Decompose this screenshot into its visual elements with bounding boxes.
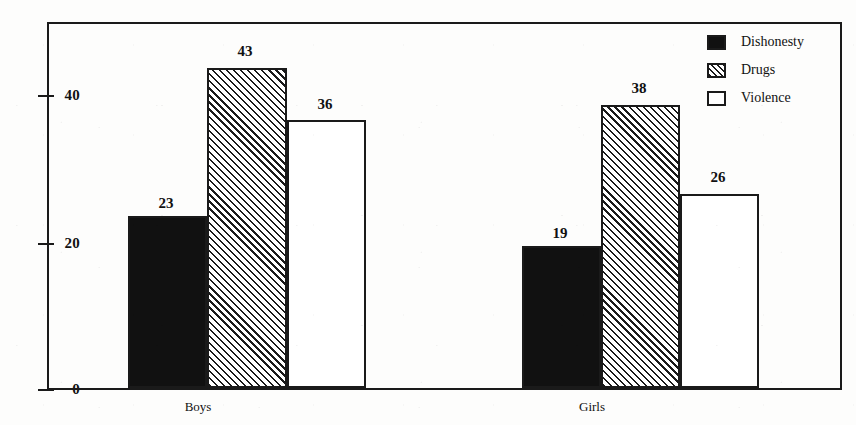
bar-value-boys-drugs: 43 [205, 44, 285, 59]
legend: Dishonesty Drugs Violence [707, 28, 847, 112]
bar-value-girls-drugs: 38 [599, 81, 679, 96]
bar-value-girls-violence: 26 [678, 170, 758, 185]
legend-label-violence: Violence [741, 91, 791, 105]
legend-swatch-dishonesty [707, 35, 726, 50]
legend-item-dishonesty: Dishonesty [707, 28, 847, 56]
bar-boys-violence [287, 120, 366, 388]
bar-value-boys-dishonesty: 23 [126, 196, 206, 211]
legend-swatch-drugs [707, 63, 726, 78]
x-tick-label-boys: Boys [158, 400, 238, 413]
legend-label-drugs: Drugs [741, 63, 775, 77]
bar-boys-drugs [207, 68, 287, 388]
bar-girls-dishonesty [522, 246, 601, 388]
legend-item-violence: Violence [707, 84, 847, 112]
bar-girls-violence [680, 194, 759, 388]
x-tick-label-girls: Girls [552, 400, 632, 413]
bar-value-girls-dishonesty: 19 [520, 226, 600, 241]
bar-value-boys-violence: 36 [285, 97, 365, 112]
legend-label-dishonesty: Dishonesty [741, 35, 804, 49]
legend-swatch-violence [707, 91, 726, 106]
bar-girls-drugs [601, 105, 680, 388]
chart-page: 40 20 0 Dishonesty Drugs Violen [0, 0, 856, 425]
bar-boys-dishonesty [128, 216, 207, 388]
legend-item-drugs: Drugs [707, 56, 847, 84]
